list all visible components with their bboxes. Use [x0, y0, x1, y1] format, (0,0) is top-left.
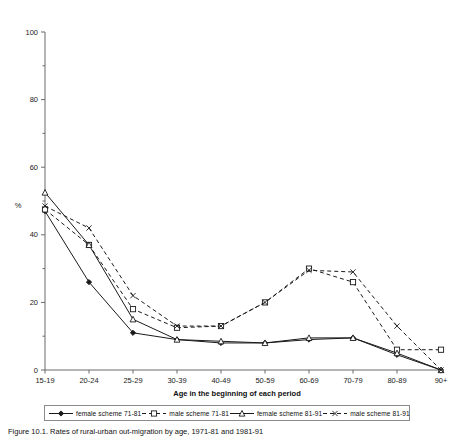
data-point-marker [130, 293, 135, 298]
series-line [45, 209, 441, 349]
y-tick-label: 80 [30, 95, 38, 104]
x-axis-title: Age in the beginning of each period [173, 389, 301, 398]
y-tick-label: 0 [34, 366, 38, 375]
data-point-marker [58, 410, 63, 415]
y-tick-label: 20 [30, 298, 38, 307]
x-tick-label: 30-39 [167, 376, 186, 385]
legend-hollow-square-icon [141, 409, 167, 418]
data-point-marker [394, 323, 399, 328]
x-tick-label: 80-89 [387, 376, 406, 385]
x-tick-label: 90+ [435, 376, 448, 385]
legend-x-cross-icon [322, 409, 348, 418]
data-point-marker [42, 190, 48, 196]
legend-entry-1[interactable]: male scheme 71-81 [141, 409, 229, 418]
x-tick-label: 40-49 [211, 376, 230, 385]
x-tick-label: 60-69 [299, 376, 318, 385]
legend-entry-2[interactable]: female scheme 81-91 [229, 409, 322, 418]
y-tick-label: 40 [30, 230, 38, 239]
figure-caption: Figure 10.1. Rates of rural-urban out-mi… [8, 427, 448, 436]
data-point-marker [350, 280, 355, 285]
series-line [45, 211, 441, 370]
legend-label: male scheme 81-91 [350, 410, 410, 417]
data-point-marker [130, 307, 135, 312]
y-tick-label: 100 [25, 28, 38, 37]
legend-label: female scheme 71-81 [76, 410, 141, 417]
data-point-marker [152, 410, 157, 415]
data-point-marker [86, 225, 91, 230]
legend-hollow-triangle-icon [229, 409, 255, 418]
line-chart-plot: 02040608010015-1920-2425-2930-3940-4950-… [0, 0, 454, 400]
data-point-marker [438, 347, 443, 352]
legend-label: female scheme 81-91 [257, 410, 322, 417]
legend-filled-diamond-icon [48, 409, 74, 418]
legend-entry-0[interactable]: female scheme 71-81 [48, 409, 141, 418]
x-tick-label: 50-59 [255, 376, 274, 385]
figure-container: 02040608010015-1920-2425-2930-3940-4950-… [0, 0, 454, 439]
x-tick-label: 20-24 [79, 376, 98, 385]
data-series [42, 190, 444, 373]
x-tick-label: 70-79 [343, 376, 362, 385]
series-male-scheme-81-91 [42, 203, 443, 372]
y-axis-label: % [15, 201, 22, 210]
legend-entry-3[interactable]: male scheme 81-91 [322, 409, 410, 418]
y-tick-label: 60 [30, 163, 38, 172]
x-tick-label: 15-19 [35, 376, 54, 385]
series-male-scheme-71-81 [42, 207, 443, 352]
data-point-marker [130, 316, 136, 322]
x-tick-label: 25-29 [123, 376, 142, 385]
chart-legend: female scheme 71-81male scheme 71-81fema… [44, 405, 410, 421]
legend-label: male scheme 71-81 [169, 410, 229, 417]
series-line [45, 206, 441, 370]
series-female-scheme-81-91 [42, 190, 444, 373]
